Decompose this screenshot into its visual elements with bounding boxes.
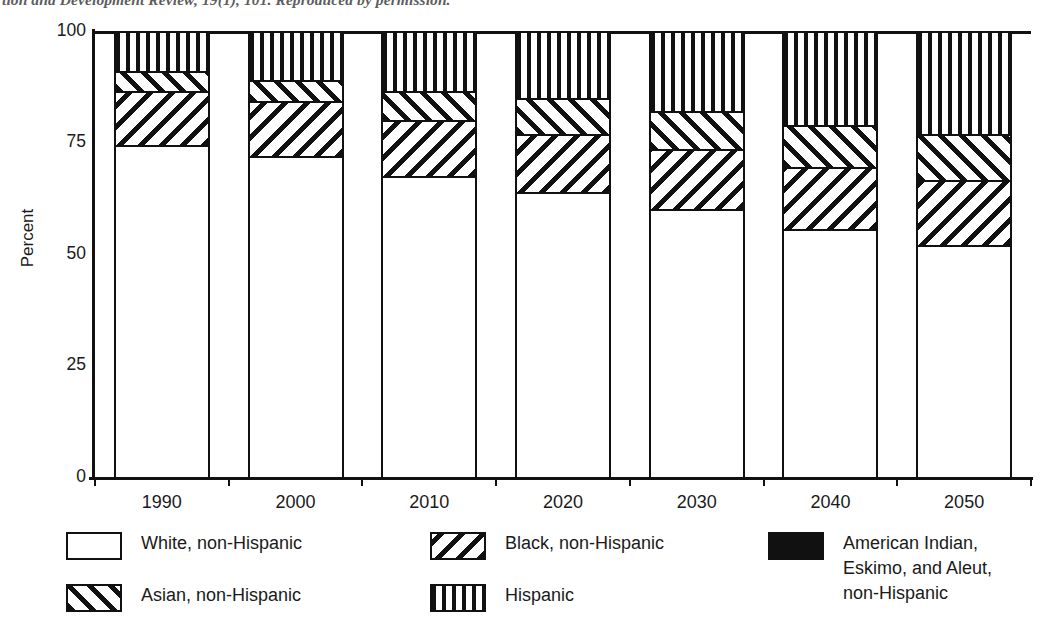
bar-segment-2050-black	[916, 180, 1012, 245]
bar-1990	[114, 31, 210, 477]
bar-2050	[916, 31, 1012, 477]
bar-2000	[248, 31, 344, 477]
legend-item-black: Black, non-Hispanic	[430, 531, 664, 560]
legend-label-hispanic: Hispanic	[505, 583, 574, 608]
legend-swatch-asian	[66, 584, 122, 612]
x-axis-tick	[495, 477, 497, 486]
legend-item-asian: Asian, non-Hispanic	[66, 583, 301, 612]
bar-segment-2010-asian	[381, 91, 477, 120]
bar-segment-2050-hispanic	[916, 31, 1012, 134]
bar-segment-2030-white	[649, 209, 745, 477]
bar-segment-2020-black	[515, 134, 611, 192]
bar-2010	[381, 31, 477, 477]
legend-swatch-white	[66, 532, 122, 560]
x-axis-tick	[228, 477, 230, 486]
bar-2040	[782, 31, 878, 477]
bar-segment-2010-hispanic	[381, 31, 477, 91]
bar-segment-2050-white	[916, 245, 1012, 477]
chart-legend: White, non-Hispanic Asian, non-Hispanic …	[0, 527, 1052, 627]
x-axis-line	[89, 477, 1033, 480]
legend-swatch-hispanic	[430, 584, 486, 612]
legend-label-american-indian: American Indian, Eskimo, and Aleut, non-…	[843, 531, 992, 606]
y-tick-0: 0	[38, 468, 86, 486]
x-tick-2010: 2010	[359, 492, 499, 513]
x-axis-tick-edge	[1030, 477, 1032, 486]
bar-segment-1990-white	[114, 145, 210, 477]
x-tick-2050: 2050	[894, 492, 1034, 513]
x-axis-tick	[629, 477, 631, 486]
legend-item-american-indian: American Indian, Eskimo, and Aleut, non-…	[768, 531, 992, 606]
bar-segment-2020-white	[515, 192, 611, 477]
x-axis-tick	[896, 477, 898, 486]
bar-segment-2040-asian	[782, 125, 878, 167]
legend-item-white: White, non-Hispanic	[66, 531, 302, 560]
bar-segment-2030-black	[649, 149, 745, 209]
x-axis-tick	[763, 477, 765, 486]
legend-item-hispanic: Hispanic	[430, 583, 574, 612]
bar-segment-2000-white	[248, 156, 344, 477]
stacked-bar-chart: Percent 0 25 50 75 100 19902000201020202…	[0, 0, 1052, 520]
plot-region	[95, 31, 1031, 477]
y-axis-tick-labels: 0 25 50 75 100	[30, 0, 86, 520]
bar-segment-2020-hispanic	[515, 31, 611, 98]
x-tick-2040: 2040	[760, 492, 900, 513]
bar-segment-2050-asian	[916, 134, 1012, 181]
bar-segment-2030-asian	[649, 111, 745, 149]
x-tick-2020: 2020	[493, 492, 633, 513]
bar-segment-2010-black	[381, 120, 477, 176]
x-tick-1990: 1990	[92, 492, 232, 513]
bar-segment-2020-asian	[515, 98, 611, 134]
bar-segment-2040-black	[782, 167, 878, 229]
bar-segment-2010-white	[381, 176, 477, 477]
x-tick-2000: 2000	[226, 492, 366, 513]
legend-swatch-black	[430, 532, 486, 560]
bar-segment-1990-black	[114, 91, 210, 145]
y-tick-25: 25	[38, 356, 86, 374]
bar-segment-1990-asian	[114, 71, 210, 91]
legend-label-black: Black, non-Hispanic	[505, 531, 664, 556]
bar-segment-2000-asian	[248, 80, 344, 101]
bar-2030	[649, 31, 745, 477]
legend-label-asian: Asian, non-Hispanic	[141, 583, 301, 608]
y-tick-50: 50	[38, 245, 86, 263]
y-tick-75: 75	[38, 133, 86, 151]
x-tick-2030: 2030	[627, 492, 767, 513]
bar-segment-2030-hispanic	[649, 31, 745, 111]
bar-segment-1990-hispanic	[114, 31, 210, 71]
bar-segment-2000-black	[248, 101, 344, 155]
bar-segment-2040-white	[782, 229, 878, 477]
x-axis-tick-edge	[94, 477, 96, 486]
legend-swatch-american-indian	[768, 532, 824, 560]
bar-segment-2040-hispanic	[782, 31, 878, 125]
y-tick-100: 100	[38, 22, 86, 40]
x-axis-tick	[361, 477, 363, 486]
bar-segment-2000-hispanic	[248, 31, 344, 80]
bar-2020	[515, 31, 611, 477]
legend-label-white: White, non-Hispanic	[141, 531, 302, 556]
